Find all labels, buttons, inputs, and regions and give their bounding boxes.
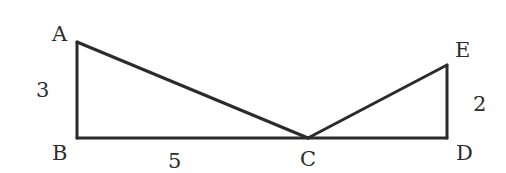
vertex-label-c: C — [300, 147, 316, 171]
vertex-label-e: E — [455, 38, 470, 62]
length-label-ab: 3 — [36, 78, 49, 102]
segment-ac — [77, 42, 308, 138]
length-label-bc: 5 — [168, 149, 181, 173]
segment-ce — [308, 65, 447, 138]
vertex-label-a: A — [51, 22, 68, 46]
length-label-de: 2 — [473, 92, 486, 116]
vertex-label-d: D — [456, 141, 473, 165]
geometry-diagram: A B C D E 3 5 2 — [0, 0, 506, 173]
vertex-label-b: B — [52, 141, 67, 165]
